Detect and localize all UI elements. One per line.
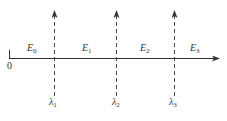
boundary-label-lambda3: λ3 — [169, 97, 177, 109]
region-label-e2: E2 — [140, 43, 150, 55]
region-label-e1: E1 — [82, 43, 92, 55]
boundary-label-lambda2: λ2 — [112, 97, 120, 109]
origin-label: 0 — [7, 61, 12, 71]
boundary-label-lambda1: λ1 — [49, 97, 57, 109]
region-label-e3: E3 — [190, 43, 200, 55]
region-label-e0: E0 — [27, 43, 37, 55]
horizontal-axis — [9, 50, 219, 59]
